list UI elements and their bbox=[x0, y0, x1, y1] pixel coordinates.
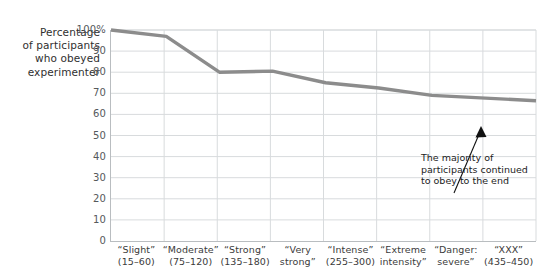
x-label-very-strong: “Very strong” bbox=[271, 244, 324, 273]
x-label-slight-line-2: (15–60) bbox=[110, 256, 163, 268]
x-label-intense: “Intense” (255–300) bbox=[324, 244, 377, 273]
y-tick-90: 90 bbox=[2, 46, 106, 56]
y-tick-80: 80 bbox=[2, 67, 106, 77]
y-tick-20: 20 bbox=[2, 194, 106, 204]
y-tick-30: 30 bbox=[2, 173, 106, 183]
x-label-xxx: “XXX” (435–450) bbox=[482, 244, 535, 273]
y-tick-40: 40 bbox=[2, 152, 106, 162]
y-tick-100: 100% bbox=[2, 25, 106, 35]
plot-svg bbox=[111, 30, 536, 241]
x-label-extreme-intensity-line-1: “Extreme bbox=[377, 244, 430, 256]
y-axis-tick-labels: 100%9080706050403020100 bbox=[0, 0, 106, 273]
chart-annotation-line-3: to obey to the end bbox=[421, 175, 553, 187]
x-label-slight-line-1: “Slight” bbox=[110, 244, 163, 256]
x-label-strong-line-1: “Strong” bbox=[219, 244, 272, 256]
x-label-intense-line-1: “Intense” bbox=[324, 244, 377, 256]
x-label-slight: “Slight” (15–60) bbox=[110, 244, 163, 273]
chart-annotation-line-2: participants continued bbox=[421, 164, 553, 176]
x-label-moderate: “Moderate” (75–120) bbox=[163, 244, 219, 273]
y-tick-60: 60 bbox=[2, 109, 106, 119]
y-tick-70: 70 bbox=[2, 88, 106, 98]
x-label-moderate-line-2: (75–120) bbox=[163, 256, 219, 268]
x-label-moderate-line-1: “Moderate” bbox=[163, 244, 219, 256]
y-tick-50: 50 bbox=[2, 131, 106, 141]
chart-annotation-line-1: The majority of bbox=[421, 152, 553, 164]
x-label-danger-severe: “Danger: severe” bbox=[430, 244, 483, 273]
x-label-very-strong-line-2: strong” bbox=[271, 256, 324, 268]
y-tick-0: 0 bbox=[2, 236, 106, 246]
x-label-very-strong-line-1: “Very bbox=[271, 244, 324, 256]
x-label-xxx-line-2: (435–450) bbox=[482, 256, 535, 268]
x-label-strong: “Strong” (135–180) bbox=[219, 244, 272, 273]
x-label-strong-line-2: (135–180) bbox=[219, 256, 272, 268]
x-axis-tick-labels: “Slight” (15–60) “Moderate” (75–120) “St… bbox=[110, 244, 535, 273]
x-label-danger-severe-line-2: severe” bbox=[430, 256, 483, 268]
chart-annotation: The majority of participants continued t… bbox=[421, 152, 553, 187]
x-label-extreme-intensity-line-2: intensity” bbox=[377, 256, 430, 268]
x-label-extreme-intensity: “Extreme intensity” bbox=[377, 244, 430, 273]
plot-area bbox=[110, 30, 536, 242]
x-label-xxx-line-1: “XXX” bbox=[482, 244, 535, 256]
y-tick-10: 10 bbox=[2, 215, 106, 225]
x-label-intense-line-2: (255–300) bbox=[324, 256, 377, 268]
x-label-danger-severe-line-1: “Danger: bbox=[430, 244, 483, 256]
obedience-line-chart: Percentage of participants who obeyed ex… bbox=[0, 0, 560, 273]
